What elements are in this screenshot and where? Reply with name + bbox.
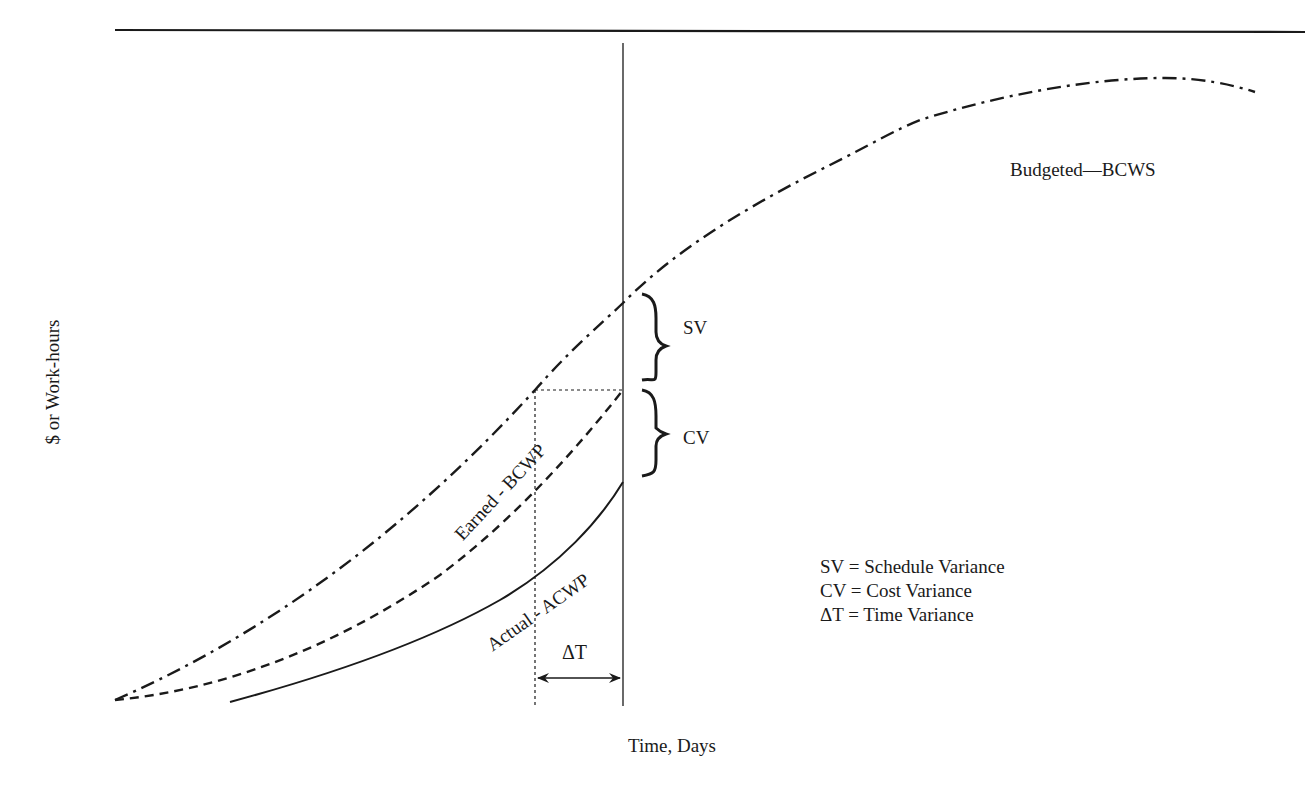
sv-brace-icon bbox=[642, 294, 666, 380]
legend-item-dt: ΔT = Time Variance bbox=[820, 603, 1005, 627]
y-axis-label: $ or Work-hours bbox=[43, 320, 62, 445]
legend-item-cv: CV = Cost Variance bbox=[820, 579, 1005, 603]
delta-t-label: ΔT bbox=[562, 642, 587, 662]
legend-item-sv: SV = Schedule Variance bbox=[820, 555, 1005, 579]
cv-brace-icon bbox=[642, 390, 666, 476]
legend: SV = Schedule Variance CV = Cost Varianc… bbox=[820, 555, 1005, 627]
bcws-label: Budgeted—BCWS bbox=[1010, 160, 1156, 179]
earned-value-diagram bbox=[0, 0, 1312, 803]
x-axis-label: Time, Days bbox=[628, 736, 716, 755]
cv-label: CV bbox=[683, 428, 709, 447]
sv-label: SV bbox=[683, 318, 707, 337]
top-rule bbox=[115, 30, 1305, 32]
